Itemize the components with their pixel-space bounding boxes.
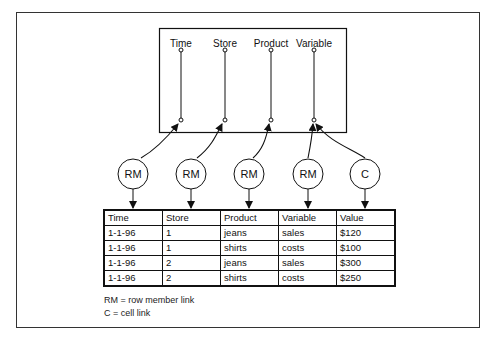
- table-cell: 1: [163, 241, 221, 256]
- table-cell: costs: [279, 271, 337, 287]
- table-cell: $250: [337, 271, 396, 287]
- column-arrows: [133, 189, 365, 208]
- link-curves: [141, 124, 365, 158]
- rm-link-label: RM: [182, 168, 199, 180]
- table-cell: 1-1-96: [104, 241, 163, 256]
- rm-link-label: RM: [299, 168, 316, 180]
- data-table: Time Store Product Variable Value 1-1-96…: [103, 209, 396, 287]
- table-row: 1-1-96 2 shirts costs $250: [104, 271, 395, 287]
- table-cell: 2: [163, 256, 221, 271]
- dimension-stems: [179, 48, 316, 122]
- dimension-label-variable: Variable: [296, 38, 332, 49]
- diagram-svg: Time Store Product Variable RM RM RM RM …: [0, 0, 494, 340]
- column-header: Variable: [279, 210, 337, 226]
- dimension-label-time: Time: [170, 38, 192, 49]
- link-nodes: RM RM RM RM C: [118, 159, 380, 189]
- table-cell: shirts: [221, 241, 279, 256]
- column-header: Product: [221, 210, 279, 226]
- column-header: Store: [163, 210, 221, 226]
- table-cell: 2: [163, 271, 221, 287]
- table-cell: jeans: [221, 256, 279, 271]
- table-row: 1-1-96 2 jeans sales $300: [104, 256, 395, 271]
- table-cell: costs: [279, 241, 337, 256]
- table-cell: $120: [337, 226, 396, 241]
- dimension-label-store: Store: [213, 38, 237, 49]
- table-cell: 1-1-96: [104, 226, 163, 241]
- table-header-row: Time Store Product Variable Value: [104, 210, 395, 226]
- table-cell: 1-1-96: [104, 271, 163, 287]
- c-link-label: C: [361, 168, 369, 180]
- table-row: 1-1-96 1 shirts costs $100: [104, 241, 395, 256]
- table-cell: 1: [163, 226, 221, 241]
- table-cell: shirts: [221, 271, 279, 287]
- table-cell: sales: [279, 226, 337, 241]
- column-header: Value: [337, 210, 396, 226]
- table-cell: sales: [279, 256, 337, 271]
- dimension-label-product: Product: [254, 38, 289, 49]
- legend-c: C = cell link: [104, 308, 150, 318]
- rm-link-label: RM: [124, 168, 141, 180]
- legend-rm: RM = row member link: [104, 295, 194, 305]
- column-header: Time: [104, 210, 163, 226]
- table-cell: 1-1-96: [104, 256, 163, 271]
- table-row: 1-1-96 1 jeans sales $120: [104, 226, 395, 241]
- diagram-canvas: Time Store Product Variable RM RM RM RM …: [0, 0, 494, 340]
- table-cell: $300: [337, 256, 396, 271]
- rm-link-label: RM: [240, 168, 257, 180]
- table-cell: jeans: [221, 226, 279, 241]
- table-cell: $100: [337, 241, 396, 256]
